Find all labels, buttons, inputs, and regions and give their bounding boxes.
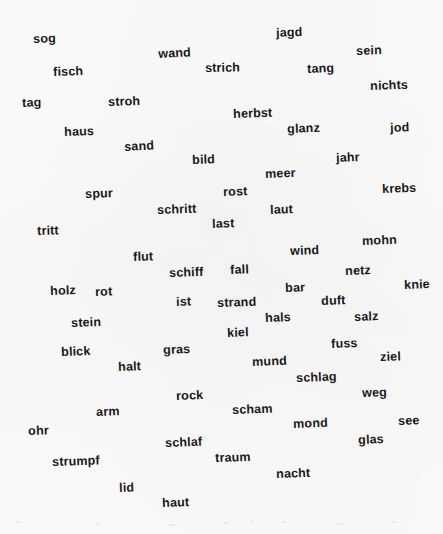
scatter-word: rot	[95, 285, 113, 298]
scatter-word: stein	[71, 316, 101, 330]
scatter-word: jod	[390, 121, 410, 134]
scan-speckle	[168, 524, 175, 526]
scatter-word: knie	[404, 278, 430, 291]
scatter-word: hals	[265, 311, 291, 324]
scatter-word: ohr	[28, 424, 49, 437]
scatter-word: mund	[252, 355, 287, 369]
scatter-word: netz	[345, 264, 371, 277]
scan-speckle	[222, 522, 230, 524]
scatter-word: nichts	[370, 79, 408, 93]
scatter-word: krebs	[382, 182, 417, 196]
scatter-word: mohn	[362, 234, 397, 248]
scatter-word: gras	[163, 343, 190, 356]
scatter-word: sein	[356, 44, 382, 57]
scatter-word: laut	[270, 203, 293, 216]
scatter-word: bar	[285, 281, 305, 294]
scatter-word: haus	[64, 125, 94, 139]
scatter-word: strand	[217, 296, 257, 310]
scatter-word: meer	[265, 167, 296, 181]
scatter-word: fisch	[53, 65, 83, 79]
scatter-word: schiff	[169, 266, 204, 280]
scan-speckle	[336, 523, 345, 525]
scatter-word: glas	[358, 433, 384, 446]
scatter-word: wand	[158, 46, 191, 60]
scatter-word: ziel	[380, 350, 401, 363]
scatter-word: blick	[61, 345, 91, 359]
scatter-word: scham	[232, 403, 273, 417]
scan-speckle	[282, 521, 287, 523]
scatter-word: holz	[50, 284, 76, 297]
scatter-word: stroh	[108, 95, 140, 109]
word-scatter-canvas: sogjagdwandseinfischstrichtangnichtstags…	[0, 0, 443, 534]
scatter-word: halt	[118, 360, 141, 373]
scatter-word: glanz	[287, 122, 320, 136]
scatter-word: schlag	[296, 371, 337, 385]
scan-speckle	[390, 521, 396, 523]
scatter-word: sog	[33, 32, 56, 45]
scatter-word: jahr	[336, 151, 360, 164]
scatter-word: last	[212, 217, 235, 230]
scatter-word: fall	[230, 263, 249, 276]
scatter-word: weg	[362, 386, 387, 399]
scatter-word: duft	[321, 294, 346, 307]
scatter-word: rost	[223, 185, 248, 198]
scatter-word: mond	[293, 417, 328, 431]
scatter-word: arm	[96, 405, 120, 418]
scatter-word: jagd	[276, 26, 303, 39]
scatter-word: traum	[215, 451, 251, 465]
scatter-word: strumpf	[52, 454, 100, 468]
scatter-word: schlaf	[165, 436, 202, 450]
scatter-word: herbst	[233, 107, 273, 121]
scatter-word: fuss	[331, 337, 358, 350]
scatter-word: tritt	[37, 224, 59, 237]
scatter-word: strich	[205, 61, 240, 74]
scatter-word: ist	[176, 295, 191, 308]
scatter-word: see	[398, 414, 420, 427]
scatter-word: schritt	[157, 203, 197, 217]
scatter-word: wind	[290, 244, 319, 258]
scatter-word: lid	[119, 481, 134, 494]
scatter-word: nacht	[276, 467, 311, 481]
scan-speckle	[96, 523, 100, 525]
scatter-word: spur	[85, 187, 113, 200]
scatter-word: haut	[162, 496, 189, 509]
scatter-word: tang	[307, 62, 334, 75]
scatter-word: tag	[22, 96, 42, 109]
scatter-word: flut	[133, 250, 153, 263]
scatter-word: rock	[176, 389, 203, 402]
scan-speckle	[250, 519, 253, 522]
scatter-word: bild	[192, 153, 215, 166]
scatter-word: kiel	[227, 326, 249, 339]
scan-speckle	[16, 521, 21, 523]
scatter-word: salz	[354, 310, 379, 323]
scatter-word: sand	[124, 139, 154, 153]
